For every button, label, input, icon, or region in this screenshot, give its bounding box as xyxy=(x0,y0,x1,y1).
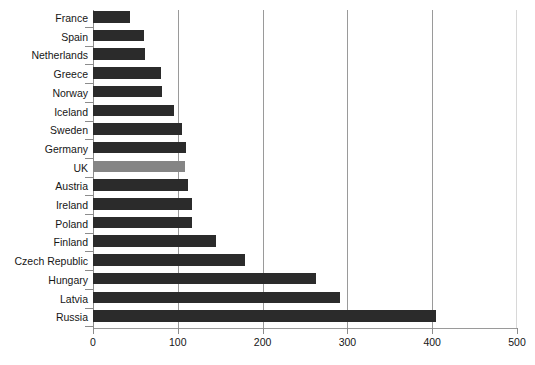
category-label-sweden: Sweden xyxy=(0,124,88,137)
bar-spain xyxy=(93,30,144,42)
x-axis-tick-label-100: 100 xyxy=(148,336,208,349)
bar-netherlands xyxy=(93,48,145,60)
bar-row: Netherlands xyxy=(0,47,535,65)
bar-ireland xyxy=(93,198,192,210)
bar-row: Russia xyxy=(0,309,535,327)
bar-row: Norway xyxy=(0,85,535,103)
category-label-france: France xyxy=(0,12,88,25)
category-label-spain: Spain xyxy=(0,31,88,44)
bar-chart: FranceSpainNetherlandsGreeceNorwayIcelan… xyxy=(0,0,535,365)
bar-rows: FranceSpainNetherlandsGreeceNorwayIcelan… xyxy=(0,10,535,328)
bar-row: Sweden xyxy=(0,122,535,140)
bar-czech-republic xyxy=(93,254,245,266)
category-label-finland: Finland xyxy=(0,236,88,249)
bar-row: France xyxy=(0,10,535,28)
x-axis-tick-label-300: 300 xyxy=(317,336,377,349)
bar-row: UK xyxy=(0,160,535,178)
bar-france xyxy=(93,11,130,23)
bar-row: Poland xyxy=(0,216,535,234)
x-axis-tick-0 xyxy=(93,328,94,334)
bar-poland xyxy=(93,217,192,229)
category-label-russia: Russia xyxy=(0,311,88,324)
bar-row: Spain xyxy=(0,29,535,47)
bar-row: Germany xyxy=(0,141,535,159)
bar-germany xyxy=(93,142,186,154)
bar-hungary xyxy=(93,273,316,285)
bar-row: Ireland xyxy=(0,197,535,215)
category-label-germany: Germany xyxy=(0,143,88,156)
bar-iceland xyxy=(93,105,174,117)
x-axis-ticks: 0100200300400500 xyxy=(0,328,535,358)
x-axis-tick-label-500: 500 xyxy=(487,336,535,349)
bar-norway xyxy=(93,86,162,98)
category-label-iceland: Iceland xyxy=(0,106,88,119)
category-label-austria: Austria xyxy=(0,180,88,193)
bar-austria xyxy=(93,179,188,191)
x-axis-tick-300 xyxy=(347,328,348,334)
category-label-greece: Greece xyxy=(0,68,88,81)
x-axis-tick-label-0: 0 xyxy=(63,336,123,349)
bar-sweden xyxy=(93,123,182,135)
category-label-ireland: Ireland xyxy=(0,199,88,212)
bar-row: Hungary xyxy=(0,272,535,290)
category-label-poland: Poland xyxy=(0,218,88,231)
category-label-hungary: Hungary xyxy=(0,274,88,287)
bar-finland xyxy=(93,235,216,247)
category-label-norway: Norway xyxy=(0,87,88,100)
bar-greece xyxy=(93,67,161,79)
bar-latvia xyxy=(93,292,340,304)
category-label-netherlands: Netherlands xyxy=(0,49,88,62)
category-label-czech-republic: Czech Republic xyxy=(0,255,88,268)
x-axis-tick-200 xyxy=(263,328,264,334)
x-axis-tick-label-200: 200 xyxy=(233,336,293,349)
x-axis-tick-100 xyxy=(178,328,179,334)
bar-row: Austria xyxy=(0,178,535,196)
category-label-latvia: Latvia xyxy=(0,293,88,306)
bar-row: Greece xyxy=(0,66,535,84)
bar-row: Finland xyxy=(0,234,535,252)
bar-row: Czech Republic xyxy=(0,253,535,271)
bar-row: Iceland xyxy=(0,104,535,122)
x-axis-tick-label-400: 400 xyxy=(402,336,462,349)
bar-uk xyxy=(93,161,185,173)
bar-russia xyxy=(93,310,436,322)
x-axis-tick-500 xyxy=(517,328,518,334)
x-axis-tick-400 xyxy=(432,328,433,334)
bar-row: Latvia xyxy=(0,291,535,309)
category-label-uk: UK xyxy=(0,162,88,175)
